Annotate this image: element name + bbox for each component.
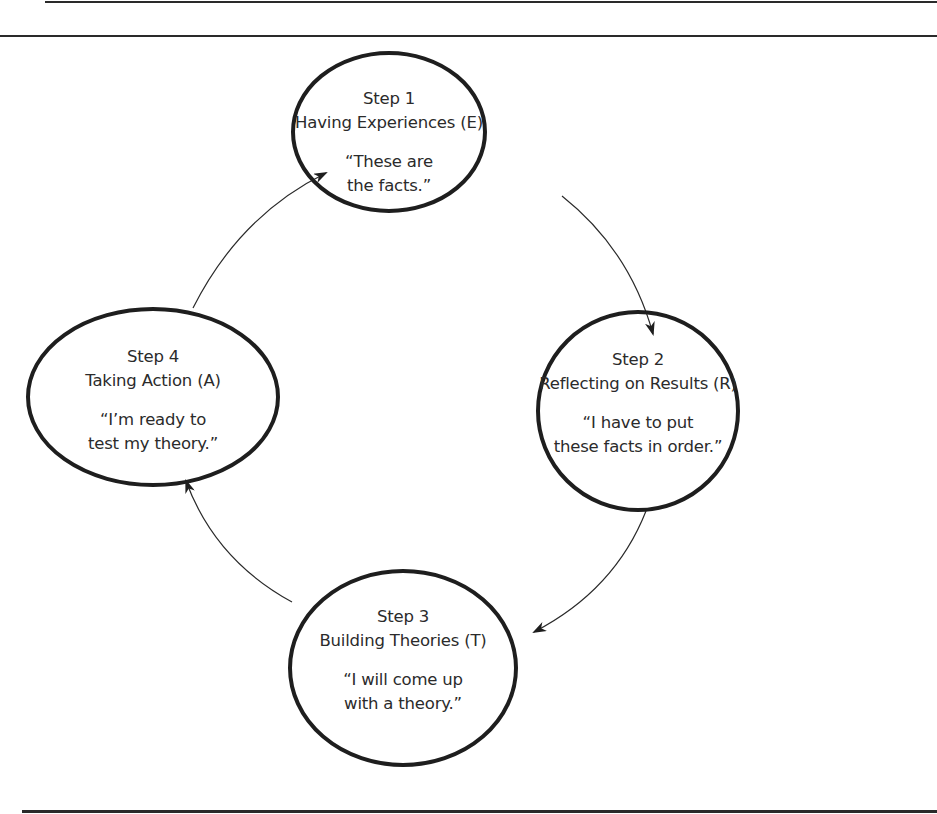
step3-title: Building Theories (T): [303, 629, 503, 653]
arrow-step2-to-step3: [534, 511, 646, 632]
step4-node: Step 4 Taking Action (A) “I’m ready to t…: [53, 345, 253, 456]
step3-quote-line2: with a theory.”: [303, 692, 503, 716]
step1-node: Step 1 Having Experiences (E) “These are…: [289, 87, 489, 198]
step4-quote-line1: “I’m ready to: [53, 408, 253, 432]
step3-number: Step 3: [303, 605, 503, 629]
arrow-step3-to-step4: [186, 481, 292, 602]
step2-number: Step 2: [538, 348, 738, 372]
step1-quote-line2: the facts.”: [289, 174, 489, 198]
step1-title: Having Experiences (E): [289, 111, 489, 135]
step3-node: Step 3 Building Theories (T) “I will com…: [303, 605, 503, 716]
step4-quote-line2: test my theory.”: [53, 432, 253, 456]
step2-node: Step 2 Reflecting on Results (R) “I have…: [538, 348, 738, 459]
step1-number: Step 1: [289, 87, 489, 111]
step2-quote-line1: “I have to put: [538, 411, 738, 435]
step2-quote-line2: these facts in order.”: [538, 435, 738, 459]
step3-quote-line1: “I will come up: [303, 668, 503, 692]
step1-quote-line1: “These are: [289, 150, 489, 174]
step2-title: Reflecting on Results (R): [538, 372, 738, 396]
step4-title: Taking Action (A): [53, 369, 253, 393]
step4-number: Step 4: [53, 345, 253, 369]
